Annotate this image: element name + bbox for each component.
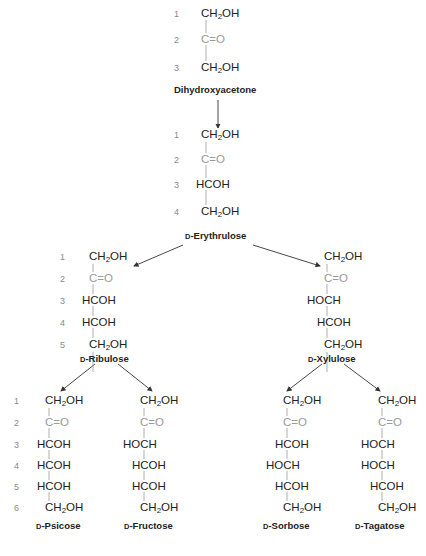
hoch-group: HOCH bbox=[361, 459, 395, 471]
ch2oh-group: CH2OH bbox=[324, 250, 362, 264]
hoch-group: HOCH bbox=[307, 294, 341, 306]
hcoh-group: HCOH bbox=[37, 459, 71, 471]
carbon-number: 1 bbox=[14, 396, 19, 406]
hoch-group: HOCH bbox=[266, 459, 300, 471]
carbonyl-group: C=O bbox=[201, 153, 225, 165]
hcoh-group: HCOH bbox=[317, 316, 351, 328]
carbon-number: 2 bbox=[174, 155, 179, 165]
arrow-xylulose-to-tagatose bbox=[344, 364, 380, 391]
carbon-number: 4 bbox=[174, 207, 179, 217]
ch2oh-group: CH2OH bbox=[45, 501, 83, 515]
label-dihydroxyacetone: Dihydroxyacetone bbox=[174, 84, 256, 95]
hcoh-group: HCOH bbox=[132, 480, 166, 492]
ch2oh-group: CH2OH bbox=[45, 394, 83, 408]
hcoh-group: HCOH bbox=[370, 480, 404, 492]
carbon-number: 5 bbox=[14, 482, 19, 492]
ch2oh-group: CH2OH bbox=[201, 61, 239, 75]
hcoh-group: HCOH bbox=[275, 438, 309, 450]
label-d-psicose: D-Psicose bbox=[36, 520, 81, 531]
label-d-erythrulose: D-Erythrulose bbox=[185, 230, 246, 241]
hcoh-group: HCOH bbox=[37, 480, 71, 492]
carbon-number: 3 bbox=[174, 180, 179, 190]
ch2oh-group: CH2OH bbox=[140, 501, 178, 515]
label-d-tagatose: D-Tagatose bbox=[355, 520, 405, 531]
ch2oh-group: CH2OH bbox=[201, 205, 239, 219]
carbon-number: 3 bbox=[60, 296, 65, 306]
carbonyl-group: C=O bbox=[283, 416, 307, 428]
ch2oh-group: CH2OH bbox=[283, 501, 321, 515]
carbonyl-group: C=O bbox=[89, 272, 113, 284]
arrow-xylulose-to-sorbose bbox=[287, 364, 322, 391]
carbon-number: 1 bbox=[174, 9, 179, 19]
label-d-xylulose: D-Xylulose bbox=[308, 353, 356, 364]
hcoh-group: HCOH bbox=[275, 480, 309, 492]
carbon-number: 1 bbox=[60, 252, 65, 262]
carbon-number: 2 bbox=[60, 274, 65, 284]
carbonyl-group: C=O bbox=[378, 416, 402, 428]
arrow-ribulose-to-fructose bbox=[118, 364, 152, 391]
ch2oh-group: CH2OH bbox=[140, 394, 178, 408]
carbon-number: 5 bbox=[60, 340, 65, 350]
carbonyl-group: C=O bbox=[324, 272, 348, 284]
carbon-number: 2 bbox=[14, 418, 19, 428]
ch2oh-group: CH2OH bbox=[201, 128, 239, 142]
arrow-erythrulose-to-ribulose bbox=[134, 245, 183, 266]
carbon-number: 4 bbox=[60, 318, 65, 328]
carbonyl-group: C=O bbox=[45, 416, 69, 428]
hcoh-group: HCOH bbox=[82, 316, 116, 328]
hcoh-group: HCOH bbox=[196, 178, 230, 190]
carbon-number: 1 bbox=[174, 130, 179, 140]
ch2oh-group: CH2OH bbox=[89, 338, 127, 352]
hoch-group: HOCH bbox=[361, 438, 395, 450]
hcoh-group: HCOH bbox=[82, 294, 116, 306]
arrow-erythrulose-to-xylulose bbox=[253, 245, 320, 266]
label-d-sorbose: D-Sorbose bbox=[263, 520, 310, 531]
carbon-number: 3 bbox=[174, 63, 179, 73]
carbonyl-group: C=O bbox=[201, 33, 225, 45]
carbon-number: 6 bbox=[14, 503, 19, 513]
label-d-fructose: D-Fructose bbox=[124, 520, 173, 531]
hcoh-group: HCOH bbox=[37, 438, 71, 450]
ch2oh-group: CH2OH bbox=[283, 394, 321, 408]
ch2oh-group: CH2OH bbox=[201, 7, 239, 21]
carbon-number: 4 bbox=[14, 461, 19, 471]
arrow-ribulose-to-psicose bbox=[61, 364, 95, 391]
ch2oh-group: CH2OH bbox=[378, 394, 416, 408]
ch2oh-group: CH2OH bbox=[89, 250, 127, 264]
ch2oh-group: CH2OH bbox=[324, 338, 362, 352]
ch2oh-group: CH2OH bbox=[378, 501, 416, 515]
carbonyl-group: C=O bbox=[140, 416, 164, 428]
hcoh-group: HCOH bbox=[132, 459, 166, 471]
label-d-ribulose: D-Ribulose bbox=[80, 353, 129, 364]
hoch-group: HOCH bbox=[123, 438, 157, 450]
carbon-number: 2 bbox=[174, 35, 179, 45]
carbon-number: 3 bbox=[14, 440, 19, 450]
